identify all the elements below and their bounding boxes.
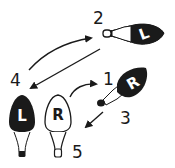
bulb-sequence-diagram: 2 1 3 4 5 L R L R	[0, 0, 175, 168]
bulb-step-2: L	[103, 24, 164, 44]
bulb-base	[55, 149, 62, 157]
step-label-2: 2	[93, 8, 104, 28]
bulb-step-5: R	[45, 95, 71, 157]
arrow-1-to-5	[86, 112, 103, 127]
arrow-5-to-1	[70, 84, 96, 97]
bulb-base	[103, 30, 111, 37]
bulb-base	[97, 100, 105, 107]
step-label-4: 4	[10, 70, 21, 90]
arrow-4-to-2	[29, 38, 91, 70]
arrow-2-to-4	[31, 49, 100, 88]
bulb-letter: L	[17, 107, 27, 125]
step-label-1: 1	[103, 69, 114, 89]
step-label-3: 3	[120, 108, 131, 128]
bulb-base	[19, 151, 26, 157]
bulb-step-4: L	[9, 95, 35, 157]
step-label-5: 5	[72, 142, 83, 162]
bulb-letter: R	[52, 106, 64, 124]
